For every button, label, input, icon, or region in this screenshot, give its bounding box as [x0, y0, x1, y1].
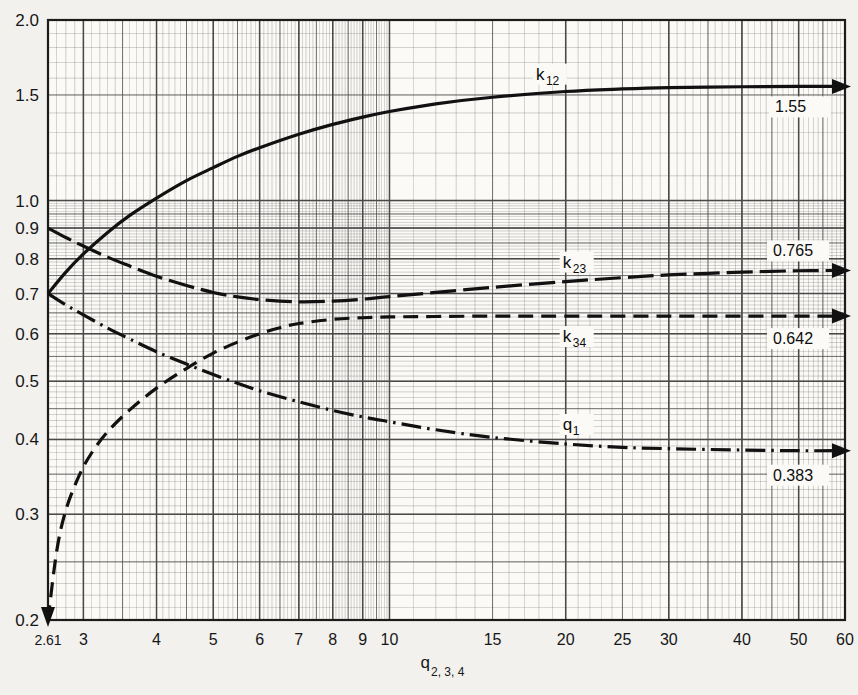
curve-label-q1: q [563, 415, 572, 434]
y-tick-label: 0.9 [15, 219, 39, 238]
x-tick-label: 60 [836, 631, 854, 648]
end-value-k23: 0.765 [773, 242, 813, 259]
y-tick-label: 0.6 [15, 325, 39, 344]
end-value-q1: 0.383 [773, 467, 813, 484]
y-tick-label: 1.5 [15, 86, 39, 105]
figure-root: 0.20.30.40.50.60.70.80.91.01.52.0 2.6134… [0, 0, 858, 695]
curve-label-sub-k12: 12 [546, 74, 560, 88]
curve-label-k23: k [563, 253, 572, 272]
curve-label-sub-q1: 1 [573, 424, 580, 438]
curve-label-k12: k [536, 65, 545, 84]
x-tick-label: 2.61 [34, 632, 61, 648]
x-tick-label: 9 [358, 631, 367, 648]
y-tick-label: 0.8 [15, 250, 39, 269]
curve-label-sub-k23: 23 [573, 262, 587, 276]
end-value-k12: 1.55 [775, 98, 806, 115]
y-tick-label: 1.0 [15, 192, 39, 211]
x-tick-label: 50 [790, 631, 808, 648]
x-tick-label: 10 [381, 631, 399, 648]
x-tick-label: 40 [733, 631, 751, 648]
y-tick-label: 0.7 [15, 285, 39, 304]
y-tick-label: 0.3 [15, 505, 39, 524]
curve-label-k34: k [563, 327, 572, 346]
x-tick-label: 8 [328, 631, 337, 648]
x-axis-title-sub: 2, 3, 4 [431, 665, 465, 679]
curve-label-sub-k34: 34 [573, 336, 587, 350]
loglog-chart: 0.20.30.40.50.60.70.80.91.01.52.0 2.6134… [0, 0, 858, 695]
x-tick-label: 3 [79, 631, 88, 648]
x-tick-label: 20 [557, 631, 575, 648]
y-tick-label: 0.4 [15, 430, 39, 449]
x-tick-label: 4 [152, 631, 161, 648]
y-tick-label: 0.2 [15, 611, 39, 630]
x-tick-label: 6 [255, 631, 264, 648]
plot-paper [48, 20, 845, 620]
end-value-k34: 0.642 [773, 330, 813, 347]
y-tick-label: 0.5 [15, 372, 39, 391]
x-tick-label: 30 [660, 631, 678, 648]
y-tick-label: 2.0 [15, 11, 39, 30]
plot-background [48, 20, 845, 620]
x-tick-label: 15 [484, 631, 502, 648]
x-axis-title-main: q [421, 653, 430, 672]
x-tick-label: 5 [209, 631, 218, 648]
x-tick-label: 7 [294, 631, 303, 648]
x-tick-label: 25 [614, 631, 632, 648]
